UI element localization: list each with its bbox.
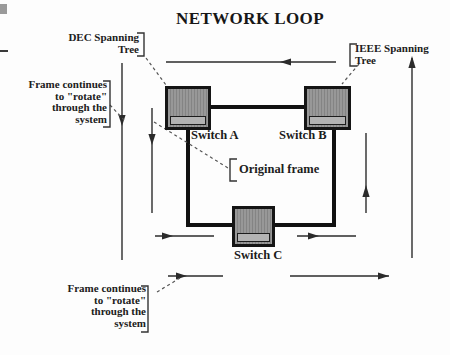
label-ieee-spanning-tree: IEEE Spanning Tree bbox=[355, 43, 429, 66]
top-flow-arrowhead-left bbox=[280, 58, 291, 65]
label-dec-spanning-tree: DEC Spanning Tree bbox=[68, 32, 139, 55]
frame-left-line4: system bbox=[28, 114, 107, 126]
label-switch-a: Switch A bbox=[191, 128, 239, 143]
scan-artifact-square bbox=[0, 4, 7, 14]
label-dec-line1: DEC Spanning bbox=[68, 32, 139, 44]
label-switch-c: Switch C bbox=[234, 248, 282, 263]
frame-bottom-line4: system bbox=[67, 318, 146, 330]
leader-frame-bottom-to-arrow bbox=[157, 278, 180, 292]
leader-ieee-to-switch-b bbox=[342, 64, 359, 84]
switch-c-port-strip bbox=[237, 233, 270, 242]
label-frame-rotates-left: Frame continues to "rotate" through the … bbox=[28, 79, 107, 125]
switch-b-port-strip bbox=[309, 116, 346, 125]
bracket-original-frame-label bbox=[230, 159, 237, 181]
switch-b-node bbox=[304, 86, 351, 130]
label-dec-line2: Tree bbox=[68, 44, 139, 56]
label-original-frame: Original frame bbox=[239, 162, 319, 177]
frame-bottom-line1: Frame continues bbox=[67, 283, 146, 295]
right-inner-arrowhead-up bbox=[362, 185, 369, 197]
left-inner-arrowhead-down bbox=[148, 134, 155, 145]
bottom-left-lower-arrowhead-right bbox=[176, 272, 187, 279]
frame-left-line3: through the bbox=[28, 102, 107, 114]
scan-artifact-line bbox=[0, 50, 8, 52]
leader-dec-to-switch-a bbox=[146, 58, 166, 85]
switch-c-node bbox=[232, 206, 275, 247]
diagram-title: NETWORK LOOP bbox=[170, 9, 330, 29]
frame-left-line1: Frame continues bbox=[28, 79, 107, 91]
label-ieee-line2: Tree bbox=[355, 55, 429, 67]
bottom-left-upper-arrowhead-right bbox=[162, 232, 173, 239]
label-switch-b: Switch B bbox=[279, 128, 327, 143]
label-ieee-line1: IEEE Spanning bbox=[355, 43, 429, 55]
label-frame-rotates-bottom: Frame continues to "rotate" through the … bbox=[67, 283, 146, 329]
frame-bottom-line3: through the bbox=[67, 306, 146, 318]
bottom-right-upper-arrowhead-right bbox=[308, 232, 319, 239]
switch-a-node bbox=[165, 86, 211, 130]
network-loop-diagram: NETWORK LOOP DEC Spanning Tree IEEE Span… bbox=[0, 0, 450, 355]
left-outer-arrowhead-down bbox=[118, 115, 125, 126]
bottom-right-lower-arrowhead-right bbox=[378, 272, 389, 279]
switch-a-port-strip bbox=[170, 116, 206, 125]
